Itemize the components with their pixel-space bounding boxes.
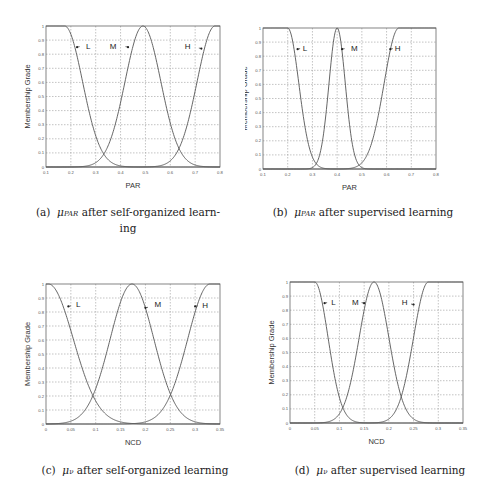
caption-d-label: (d) bbox=[295, 464, 310, 476]
y-tick-label: 0.3 bbox=[255, 124, 261, 129]
caption-a-sub: PAR bbox=[64, 210, 78, 218]
annotation-label-M: M bbox=[352, 298, 359, 307]
x-tick-label: 0 bbox=[289, 426, 292, 431]
x-tick-label: 0.3 bbox=[93, 170, 99, 175]
chart-b: 0.10.20.30.40.50.60.70.800.10.20.30.40.5… bbox=[245, 0, 490, 190]
y-tick-label: 0.7 bbox=[38, 66, 44, 71]
caption-b-text: after supervised learning bbox=[319, 206, 453, 218]
caption-b-sub: PAR bbox=[301, 210, 315, 218]
caption-b-label: (b) bbox=[273, 206, 288, 218]
y-tick-label: 0.2 bbox=[255, 138, 261, 143]
annotation-label-L: L bbox=[86, 42, 91, 51]
caption-d: (d) μν after supervised learning bbox=[280, 463, 480, 479]
figure-panel-a: 0.10.20.30.40.50.60.70.800.10.20.30.40.5… bbox=[0, 0, 245, 190]
x-tick-label: 0.2 bbox=[68, 170, 74, 175]
y-tick-label: 1 bbox=[259, 26, 262, 31]
y-tick-label: 0 bbox=[42, 165, 45, 170]
y-tick-label: 1 bbox=[42, 24, 45, 29]
x-tick-label: 0.4 bbox=[118, 170, 124, 175]
y-tick-label: 0.4 bbox=[282, 364, 288, 369]
x-tick-label: 0.1 bbox=[43, 170, 49, 175]
x-tick-label: 0.8 bbox=[433, 172, 439, 177]
y-tick-label: 0.7 bbox=[282, 322, 288, 327]
annotation-label-L: L bbox=[303, 44, 308, 53]
y-axis-label: Membership Grade bbox=[267, 320, 276, 384]
y-tick-label: 0.8 bbox=[282, 308, 288, 313]
y-tick-label: 0.5 bbox=[255, 96, 261, 101]
y-tick-label: 0.5 bbox=[38, 352, 44, 357]
caption-c-sub: ν bbox=[69, 468, 73, 476]
x-axis-label: PAR bbox=[126, 181, 141, 190]
y-axis-label: Membership Grade bbox=[23, 64, 32, 128]
y-tick-label: 0.6 bbox=[38, 80, 44, 85]
x-tick-label: 0.7 bbox=[408, 172, 414, 177]
y-tick-label: 0.7 bbox=[38, 324, 44, 329]
x-tick-label: 0.2 bbox=[386, 426, 392, 431]
x-tick-label: 0.2 bbox=[143, 427, 149, 432]
x-tick-label: 0.4 bbox=[334, 172, 340, 177]
y-tick-label: 0.6 bbox=[282, 336, 288, 341]
annotation-label-H: H bbox=[185, 42, 191, 51]
chart-c: 00.050.10.150.20.250.30.3500.10.20.30.40… bbox=[0, 260, 245, 450]
y-tick-label: 0.7 bbox=[255, 68, 261, 73]
y-axis-label: Membership Grade bbox=[23, 322, 32, 386]
caption-a-mu: μ bbox=[57, 206, 64, 218]
y-tick-label: 0.9 bbox=[282, 294, 288, 299]
y-tick-label: 0.1 bbox=[38, 150, 44, 155]
x-tick-label: 0.3 bbox=[192, 427, 198, 432]
caption-c: (c) μν after self-organized learning bbox=[30, 463, 240, 479]
figure-panel-b: 0.10.20.30.40.50.60.70.800.10.20.30.40.5… bbox=[245, 0, 490, 190]
y-tick-label: 0.2 bbox=[38, 136, 44, 141]
figure-panel-d: 00.050.10.150.20.250.30.3500.10.20.30.40… bbox=[245, 260, 490, 450]
y-tick-label: 0.4 bbox=[38, 108, 44, 113]
y-tick-label: 1 bbox=[286, 280, 289, 285]
y-tick-label: 0.3 bbox=[282, 378, 288, 383]
y-tick-label: 0.5 bbox=[38, 94, 44, 99]
x-tick-label: 0.25 bbox=[409, 426, 418, 431]
y-tick-label: 0 bbox=[286, 421, 289, 426]
y-tick-label: 0.1 bbox=[282, 406, 288, 411]
y-tick-label: 0.9 bbox=[38, 296, 44, 301]
grid: 00.050.10.150.20.250.30.3500.10.20.30.40… bbox=[282, 280, 468, 432]
y-tick-label: 0.4 bbox=[38, 366, 44, 371]
chart-a: 0.10.20.30.40.50.60.70.800.10.20.30.40.5… bbox=[0, 0, 245, 190]
annotation-label-M: M bbox=[155, 300, 162, 309]
annotation-label-M: M bbox=[110, 42, 117, 51]
x-tick-label: 0.5 bbox=[359, 172, 365, 177]
x-tick-label: 0.35 bbox=[216, 427, 225, 432]
x-tick-label: 0.3 bbox=[310, 172, 316, 177]
x-tick-label: 0.25 bbox=[166, 427, 175, 432]
annotation-label-M: M bbox=[351, 44, 358, 53]
x-tick-label: 0 bbox=[45, 427, 48, 432]
grid: 00.050.10.150.20.250.30.3500.10.20.30.40… bbox=[38, 282, 225, 433]
x-tick-label: 0.2 bbox=[285, 172, 291, 177]
x-tick-label: 0.15 bbox=[360, 426, 369, 431]
x-tick-label: 0.1 bbox=[260, 172, 266, 177]
caption-c-label: (c) bbox=[42, 464, 56, 476]
x-tick-label: 0.5 bbox=[143, 170, 149, 175]
y-tick-label: 0.1 bbox=[255, 152, 261, 157]
caption-a-label: (a) bbox=[36, 206, 50, 218]
y-tick-label: 0.8 bbox=[38, 52, 44, 57]
y-tick-label: 0.1 bbox=[38, 408, 44, 413]
y-tick-label: 0.3 bbox=[38, 380, 44, 385]
x-axis-label: NCD bbox=[125, 438, 142, 447]
y-tick-label: 0.9 bbox=[38, 38, 44, 43]
caption-a-text: after self-organized learn- bbox=[82, 206, 220, 218]
annotation-label-L: L bbox=[76, 300, 81, 309]
x-tick-label: 0.8 bbox=[217, 170, 223, 175]
y-tick-label: 0.9 bbox=[255, 40, 261, 45]
x-tick-label: 0.1 bbox=[337, 426, 343, 431]
x-tick-label: 0.1 bbox=[93, 427, 99, 432]
annotation-label-H: H bbox=[395, 44, 401, 53]
caption-c-text: after self-organized learning bbox=[77, 464, 229, 476]
y-tick-label: 0.6 bbox=[38, 338, 44, 343]
caption-b: (b) μPAR after supervised learning bbox=[258, 205, 468, 221]
y-tick-label: 0.8 bbox=[38, 310, 44, 315]
y-tick-label: 1 bbox=[42, 282, 45, 287]
x-tick-label: 0.6 bbox=[384, 172, 390, 177]
y-tick-label: 0.6 bbox=[255, 82, 261, 87]
y-tick-label: 0.5 bbox=[282, 350, 288, 355]
annotation-label-L: L bbox=[331, 298, 336, 307]
grid: 0.10.20.30.40.50.60.70.800.10.20.30.40.5… bbox=[38, 24, 223, 176]
